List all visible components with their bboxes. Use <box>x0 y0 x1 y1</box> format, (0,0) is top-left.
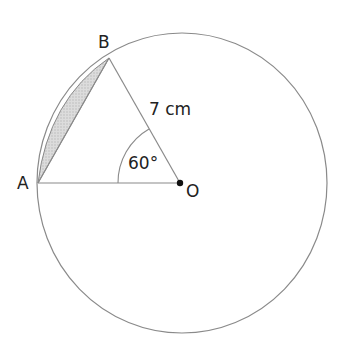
label-O: O <box>186 183 199 200</box>
label-A: A <box>17 175 29 192</box>
circle-sector-diagram: B A O 7 cm 60° <box>0 0 346 350</box>
chord-AB <box>38 58 109 183</box>
geometry-figure <box>0 0 346 350</box>
center-point <box>177 180 183 186</box>
radius-label: 7 cm <box>149 101 191 118</box>
angle-label: 60° <box>128 155 158 172</box>
label-B: B <box>98 34 110 51</box>
